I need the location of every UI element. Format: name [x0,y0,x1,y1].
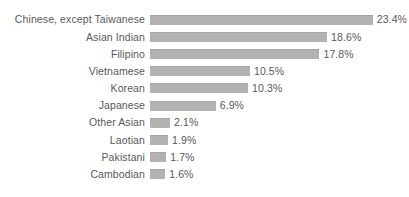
bar [150,15,373,25]
category-label: Laotian [0,135,150,146]
category-label: Cambodian [0,169,150,180]
value-label: 1.7% [170,152,194,163]
category-label: Vietnamese [0,66,150,77]
value-label: 10.3% [252,83,282,94]
bar [150,83,248,93]
bar [150,135,168,145]
value-label: 23.4% [377,14,407,25]
bar-row: Other Asian2.1% [0,114,409,131]
bar-track: 1.6% [150,169,409,180]
bar [150,152,166,162]
category-label: Other Asian [0,117,150,128]
value-label: 6.9% [220,100,244,111]
category-label: Chinese, except Taiwanese [0,14,150,25]
bar-track: 6.9% [150,100,409,111]
category-label: Asian Indian [0,32,150,43]
bar-row: Laotian1.9% [0,131,409,148]
value-label: 1.6% [169,169,193,180]
bar [150,169,165,179]
bar [150,101,216,111]
chart-rows: Chinese, except Taiwanese23.4%Asian Indi… [0,11,409,183]
value-label: 18.6% [331,32,361,43]
bar-track: 1.7% [150,152,409,163]
category-label: Japanese [0,100,150,111]
value-label: 1.9% [172,135,196,146]
category-label: Pakistani [0,152,150,163]
bar [150,118,170,128]
bar-row: Chinese, except Taiwanese23.4% [0,11,409,28]
bar-track: 10.5% [150,66,409,77]
bar-row: Korean10.3% [0,80,409,97]
bar-row: Cambodian1.6% [0,166,409,183]
bar-track: 2.1% [150,117,409,128]
category-label: Korean [0,83,150,94]
bar-row: Japanese6.9% [0,97,409,114]
value-label: 2.1% [174,117,198,128]
bar-track: 18.6% [150,32,409,43]
bar-track: 10.3% [150,83,409,94]
value-label: 17.8% [323,49,353,60]
bar [150,49,319,59]
bar-track: 17.8% [150,49,409,60]
category-label: Filipino [0,49,150,60]
bar-row: Asian Indian18.6% [0,28,409,45]
bar [150,66,250,76]
bar [150,32,327,42]
bar-row: Filipino17.8% [0,45,409,62]
bar-row: Vietnamese10.5% [0,63,409,80]
bar-track: 1.9% [150,135,409,146]
value-label: 10.5% [254,66,284,77]
bar-track: 23.4% [150,14,409,25]
horizontal-bar-chart: Chinese, except Taiwanese23.4%Asian Indi… [0,0,409,197]
bar-row: Pakistani1.7% [0,149,409,166]
